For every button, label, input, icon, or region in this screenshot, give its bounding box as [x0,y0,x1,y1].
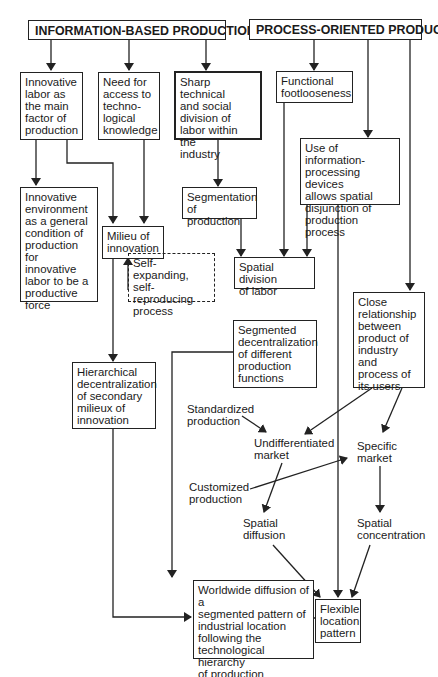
label-spatial-diffusion: Spatial diffusion [243,517,285,541]
box-spatial-division-of-labor: Spatial division of labor [234,257,315,289]
label-spatial-concentration: Spatial concentration [357,517,425,541]
box-sharp-division-of-labor: Sharp technical and social division of l… [174,71,262,140]
box-hierarchical-decentralization: Hierarchical decentralization of seconda… [72,362,156,429]
box-segmentation-of-production: Segmentation of production [182,187,257,219]
box-segmented-decentralization: Segmented decentralization of different … [233,320,317,388]
box-innovative-environment: Innovative environment as a general cond… [20,187,98,302]
box-flexible-location-pattern: Flexible location pattern [315,599,361,643]
box-close-relationship: Close relationship between product of in… [353,292,425,388]
label-undifferentiated-market: Undifferentiated market [254,437,334,461]
header-information-based-production: INFORMATION-BASED PRODUCTION [28,20,226,40]
box-worldwide-diffusion: Worldwide diffusion of a segmented patte… [193,580,314,659]
box-innovative-labor: Innovative labor as the main factor of p… [20,72,83,140]
box-self-expanding-process: Self-expanding, self-reproducing process [128,253,215,302]
box-need-access-knowledge: Need for access to techno- logical knowl… [98,72,160,140]
box-information-processing-devices: Use of information- processing devices a… [300,138,400,205]
label-customized-production: Customized production [189,481,249,505]
label-standardized-production: Standardized production [187,403,254,427]
flow-diagram: INFORMATION-BASED PRODUCTION PROCESS-ORI… [0,0,438,677]
label-specific-market: Specific market [357,440,397,464]
header-process-oriented-product: PROCESS-ORIENTED PRODUCT [249,19,422,40]
box-functional-footlooseness: Functional footlooseness [276,71,353,103]
